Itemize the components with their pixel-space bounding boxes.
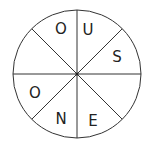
segment-letter: N — [55, 110, 66, 128]
segment-letter: O — [55, 20, 67, 38]
segment-letter: U — [83, 21, 94, 39]
letter-wheel: U S E N O O — [0, 0, 148, 150]
center-dot — [76, 73, 79, 76]
segment-letter: O — [29, 84, 41, 102]
segment-letter: S — [112, 48, 122, 66]
segment-letter: E — [88, 112, 97, 130]
